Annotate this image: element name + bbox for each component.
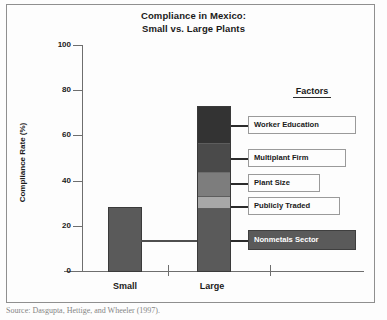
legend-label-plant-size: Plant Size: [254, 179, 290, 187]
legend-heading: Factors: [252, 86, 372, 96]
legend-box-nonmetals-sector[interactable]: Nonmetals Sector: [248, 230, 356, 250]
legend-label-publicly-traded: Publicly Traded: [254, 202, 310, 210]
y-tick-label-0: 0: [31, 267, 71, 275]
y-axis-label: Compliance Rate (%): [18, 103, 27, 223]
y-tick-20: [73, 226, 83, 227]
x-tick-end: [270, 265, 271, 276]
x-category-large: Large: [167, 281, 257, 291]
legend-connector-multiplant-firm: [231, 158, 248, 160]
chart-title-line-1: Compliance in Mexico:: [141, 10, 246, 21]
legend-connector-nonmetals-sector: [231, 240, 248, 242]
y-tick-60: [73, 135, 83, 136]
legend-box-worker-education[interactable]: Worker Education: [248, 116, 356, 134]
legend-box-plant-size[interactable]: Plant Size: [248, 174, 320, 192]
segment-nonmetals-sector[interactable]: [198, 209, 230, 271]
reference-connector-line: [141, 240, 198, 242]
legend-label-multiplant-firm: Multiplant Firm: [254, 154, 308, 162]
y-tick-label-60: 60: [31, 131, 71, 139]
segment-worker-education[interactable]: [198, 107, 230, 144]
legend-connector-plant-size: [231, 183, 248, 185]
x-category-small: Small: [80, 281, 170, 291]
chart-figure: Compliance in Mexico: Small vs. Large Pl…: [0, 0, 387, 320]
bar-large[interactable]: [197, 106, 231, 272]
x-tick-divider: [168, 265, 169, 276]
y-tick-100: [73, 45, 83, 46]
y-tick-0: [73, 271, 83, 272]
legend-connector-publicly-traded: [231, 206, 248, 208]
y-tick-80: [73, 90, 83, 91]
legend-heading-text: Factors: [293, 86, 332, 98]
legend-connector-worker-education: [231, 125, 248, 127]
legend-label-worker-education: Worker Education: [254, 121, 319, 129]
y-tick-label-80: 80: [31, 86, 71, 94]
segment-publicly-traded[interactable]: [198, 197, 230, 209]
legend-box-publicly-traded[interactable]: Publicly Traded: [248, 197, 340, 215]
segment-plant-size[interactable]: [198, 173, 230, 197]
bar-small[interactable]: [108, 207, 142, 272]
y-tick-label-40: 40: [31, 177, 71, 185]
y-tick-label-20: 20: [31, 222, 71, 230]
legend-box-multiplant-firm[interactable]: Multiplant Firm: [248, 149, 346, 167]
source-note: Source: Dasgupta, Hettige, and Wheeler (…: [6, 306, 160, 315]
segment-multiplant-firm[interactable]: [198, 144, 230, 173]
chart-title-line-2: Small vs. Large Plants: [0, 23, 387, 36]
y-tick-label-100: 100: [31, 41, 71, 49]
legend-label-nonmetals-sector: Nonmetals Sector: [254, 236, 319, 244]
y-tick-40: [73, 181, 83, 182]
y-axis-line: [82, 46, 83, 271]
chart-title: Compliance in Mexico: Small vs. Large Pl…: [0, 10, 387, 35]
